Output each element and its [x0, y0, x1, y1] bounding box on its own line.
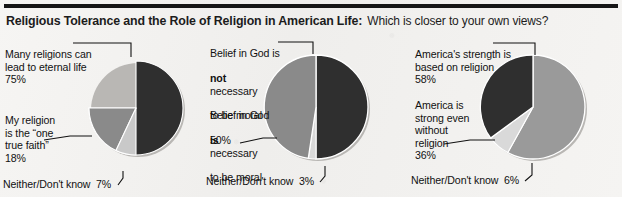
- chart-panel-1: Many religions can lead to eternal life7…: [0, 30, 205, 197]
- callout-1a-pct: 75%: [5, 73, 92, 85]
- callout-1a-text: Many religions can lead to eternal life: [5, 48, 92, 72]
- leader-line-2c: [320, 166, 325, 182]
- callout-3a-text: America's strength is based on religion: [415, 48, 511, 72]
- pie-2-slice-50: [316, 55, 368, 159]
- callout-label-3c: Neither/Don't know 6%: [411, 174, 519, 186]
- page-title: Religious Tolerance and the Role of Reli…: [6, 12, 616, 30]
- callout-label-1a: Many religions can lead to eternal life7…: [5, 36, 92, 98]
- chart-panel-2: Belief in God is not necessary to be mor…: [205, 30, 410, 197]
- callout-3c-pct: 6%: [504, 174, 519, 186]
- callout-2a-line1: Belief in God is: [210, 47, 280, 59]
- callout-1b-pct: 18%: [5, 152, 55, 164]
- pie-chart-1: [86, 58, 186, 158]
- callout-1c-pct: 7%: [96, 178, 111, 190]
- callout-2c-text: Neither/Don't know: [206, 175, 293, 187]
- headline-lead: Religious Tolerance and the Role of Reli…: [6, 14, 362, 28]
- callout-2b-line2: necessary: [210, 147, 257, 159]
- callout-label-1b: My religion is the “one true faith”18%: [5, 102, 55, 176]
- callout-2c-pct: 3%: [299, 175, 314, 187]
- callout-label-3b: America is strong even without religion3…: [415, 87, 469, 174]
- callout-3c-text: Neither/Don't know: [411, 174, 498, 186]
- callout-2b-pct: 47%: [210, 196, 231, 197]
- callout-label-2c: Neither/Don't know 3%: [206, 175, 314, 187]
- infographic-figure: Religious Tolerance and the Role of Reli…: [0, 0, 622, 197]
- callout-2a-emphasis: not: [210, 72, 226, 84]
- headline-question: Which is closer to your own views?: [367, 14, 548, 28]
- leader-line-3c: [525, 163, 532, 181]
- callout-1b-text: My religion is the “one true faith”: [5, 114, 55, 151]
- callout-2a-line2: necessary: [210, 85, 257, 97]
- callout-3a-pct: 58%: [415, 73, 511, 85]
- callout-2b-emphasis: is: [210, 134, 219, 146]
- callout-3b-pct: 36%: [415, 149, 469, 161]
- callout-3b-text: America is strong even without religion: [415, 99, 469, 148]
- callout-2b-line1: Belief in God: [210, 109, 269, 121]
- chart-panel-3: America's strength is based on religion5…: [410, 30, 622, 197]
- callout-1c-text: Neither/Don't know: [3, 178, 90, 190]
- pie-1-svg: [86, 58, 186, 158]
- header-rule: [4, 4, 618, 8]
- leader-line-1c: [118, 171, 123, 185]
- callout-label-1c: Neither/Don't know 7%: [3, 178, 111, 190]
